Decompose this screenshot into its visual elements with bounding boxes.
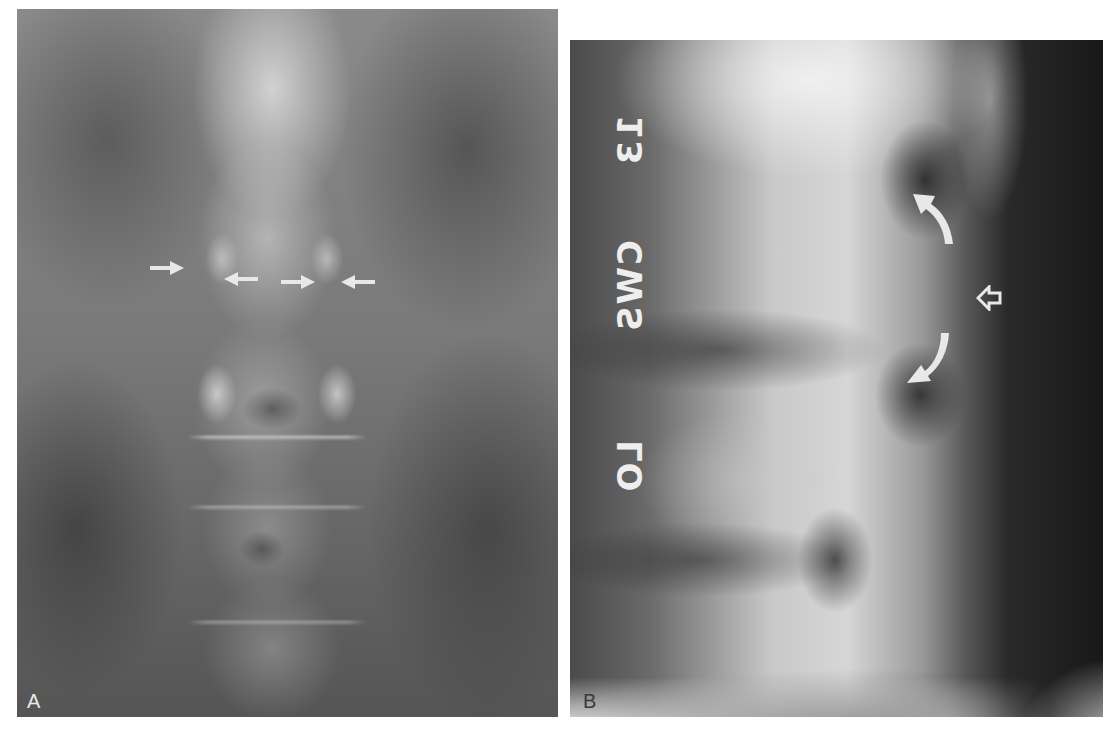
film-marker-cws: CWS — [610, 240, 650, 333]
curved-arrow-down-icon — [907, 333, 953, 385]
film-marker-l3: 13 — [610, 115, 650, 166]
panel-a-ap-radiograph — [17, 9, 558, 717]
arrow-right-icon — [281, 275, 315, 289]
film-marker-lo: LO — [610, 440, 650, 493]
panel-label-a: A — [27, 691, 40, 711]
arrow-left-icon — [224, 272, 258, 286]
panel-label-b: B — [583, 691, 596, 711]
endplates — [17, 9, 558, 717]
arrow-left-icon — [341, 275, 375, 289]
curved-arrow-up-icon — [913, 192, 959, 246]
open-arrow-left-icon — [976, 285, 1002, 311]
arrow-right-icon — [150, 261, 184, 275]
